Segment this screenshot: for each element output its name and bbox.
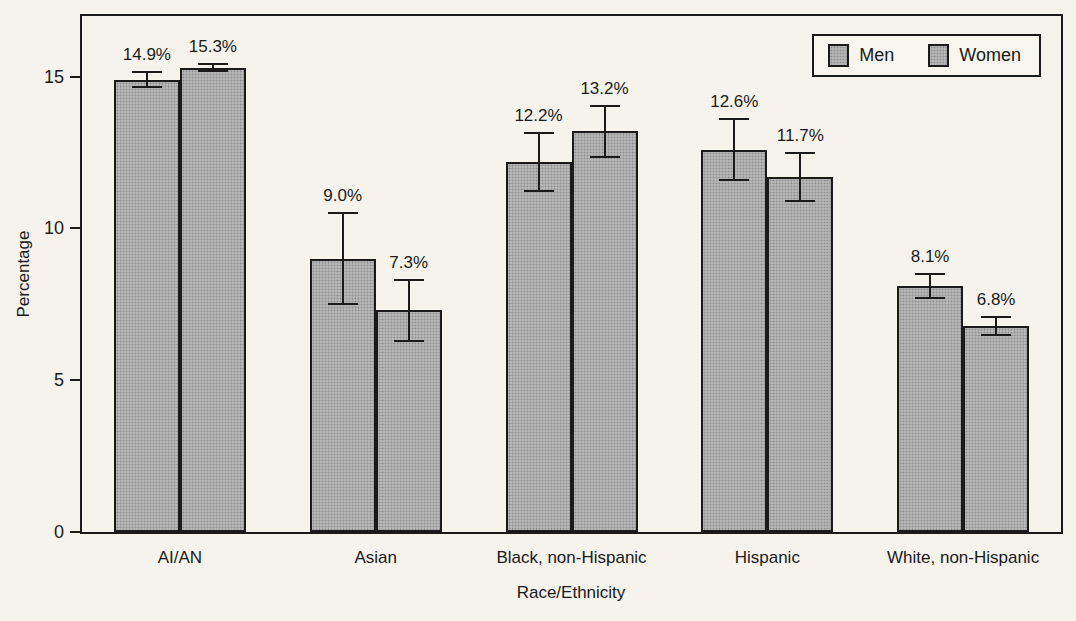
error-bar-line-men-black <box>538 133 540 191</box>
error-bar-cap-bottom-women-asian <box>394 340 424 342</box>
bar-men-black <box>506 162 572 532</box>
y-tick-label: 0 <box>22 521 64 543</box>
x-category-label-hispanic: Hispanic <box>735 548 800 568</box>
bar-men-white <box>897 286 963 532</box>
value-label-women-black: 13.2% <box>557 79 653 99</box>
x-category-label-white: White, non-Hispanic <box>887 548 1039 568</box>
figure: Percentage 051015 14.9%15.3%9.0%7.3%12.2… <box>0 0 1076 621</box>
legend-item-women: Women <box>928 44 1021 67</box>
bar-men-aian <box>114 80 180 532</box>
x-category-label-asian: Asian <box>354 548 397 568</box>
error-bar-cap-bottom-men-white <box>915 297 945 299</box>
value-label-women-hispanic: 11.7% <box>752 126 848 146</box>
error-bar-cap-top-women-asian <box>394 279 424 281</box>
x-category-label-aian: AI/AN <box>158 548 202 568</box>
error-bar-cap-top-women-aian <box>198 63 228 65</box>
y-tick <box>70 379 80 381</box>
legend-label-men: Men <box>859 45 894 66</box>
error-bar-cap-bottom-men-aian <box>132 86 162 88</box>
error-bar-cap-top-men-hispanic <box>719 118 749 120</box>
bar-men-hispanic <box>701 150 767 532</box>
error-bar-cap-bottom-women-black <box>590 156 620 158</box>
error-bar-cap-bottom-men-black <box>524 190 554 192</box>
bar-women-black <box>572 131 638 532</box>
y-tick <box>70 531 80 533</box>
bar-women-hispanic <box>767 177 833 532</box>
x-axis-category-labels: AI/ANAsianBlack, non-HispanicHispanicWhi… <box>82 548 1061 572</box>
women-swatch-icon <box>928 44 949 67</box>
value-label-men-white: 8.1% <box>882 247 978 267</box>
x-axis-title: Race/Ethnicity <box>517 583 626 603</box>
bar-women-asian <box>376 310 442 532</box>
error-bar-line-women-black <box>604 106 606 158</box>
error-bar-cap-top-women-black <box>590 105 620 107</box>
y-tick-label: 5 <box>22 369 64 391</box>
error-bar-cap-bottom-women-aian <box>198 70 228 72</box>
error-bar-line-men-asian <box>342 213 344 304</box>
bar-women-white <box>963 326 1029 532</box>
error-bar-line-men-aian <box>146 72 148 87</box>
error-bar-line-women-hispanic <box>799 153 801 202</box>
error-bar-cap-bottom-men-hispanic <box>719 179 749 181</box>
error-bar-cap-top-men-aian <box>132 71 162 73</box>
error-bar-line-men-hispanic <box>733 119 735 180</box>
value-label-men-black: 12.2% <box>491 106 587 126</box>
error-bar-line-men-white <box>929 274 931 298</box>
error-bar-cap-top-men-white <box>915 273 945 275</box>
error-bar-cap-top-women-white <box>981 316 1011 318</box>
error-bar-cap-top-men-asian <box>328 212 358 214</box>
bar-women-aian <box>180 68 246 532</box>
value-label-men-hispanic: 12.6% <box>686 92 782 112</box>
y-tick-label: 15 <box>22 66 64 88</box>
error-bar-cap-top-women-hispanic <box>785 152 815 154</box>
y-tick-label: 10 <box>22 217 64 239</box>
value-label-women-aian: 15.3% <box>165 37 261 57</box>
error-bar-cap-bottom-men-asian <box>328 303 358 305</box>
error-bar-cap-top-men-black <box>524 132 554 134</box>
error-bar-line-women-asian <box>408 280 410 341</box>
y-tick <box>70 76 80 78</box>
x-category-label-black: Black, non-Hispanic <box>496 548 646 568</box>
value-label-women-asian: 7.3% <box>361 253 457 273</box>
error-bar-cap-bottom-women-white <box>981 334 1011 336</box>
plot-area: 051015 14.9%15.3%9.0%7.3%12.2%13.2%12.6%… <box>80 14 1063 534</box>
legend-label-women: Women <box>959 45 1021 66</box>
y-tick <box>70 227 80 229</box>
error-bar-line-women-white <box>995 317 997 335</box>
legend-item-men: Men <box>828 44 894 67</box>
legend: Men Women <box>812 34 1041 77</box>
men-swatch-icon <box>828 44 849 67</box>
value-label-women-white: 6.8% <box>948 290 1044 310</box>
error-bar-cap-bottom-women-hispanic <box>785 200 815 202</box>
value-label-men-asian: 9.0% <box>295 186 391 206</box>
y-axis-title: Percentage <box>14 231 34 318</box>
